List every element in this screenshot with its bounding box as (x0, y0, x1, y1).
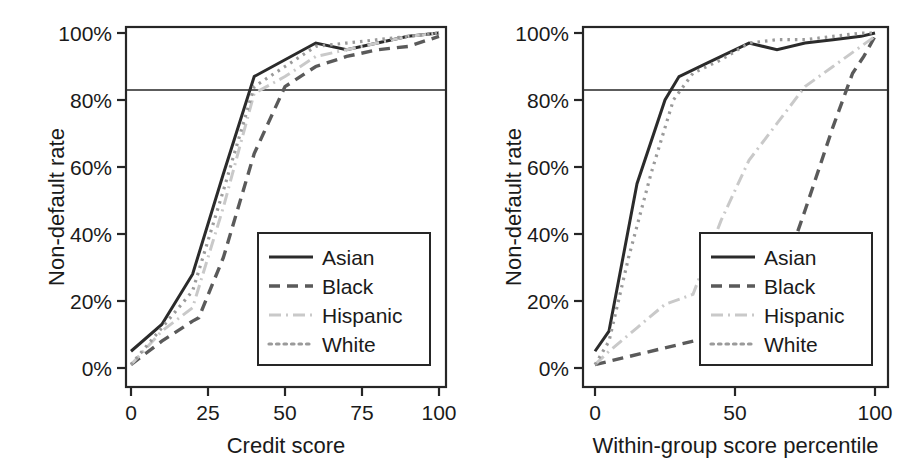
y-tick-label-20: 20% (527, 290, 569, 313)
legend-label-white: White (764, 333, 818, 356)
y-axis-title: Non-default rate (44, 128, 69, 286)
legend-label-hispanic: Hispanic (764, 304, 845, 327)
chart-panel-right: 0%20%40%60%80%100%050100Within-group sco… (461, 0, 923, 459)
legend-label-black: Black (322, 275, 374, 298)
y-tick-label-60: 60% (527, 156, 569, 179)
y-tick-label-0: 0% (82, 357, 112, 380)
x-tick-label-0: 0 (589, 401, 601, 424)
x-tick-label-50: 50 (273, 401, 296, 424)
y-tick-label-0: 0% (539, 357, 569, 380)
legend-label-asian: Asian (764, 246, 817, 269)
y-tick-label-40: 40% (70, 223, 112, 246)
y-tick-label-80: 80% (527, 89, 569, 112)
x-tick-label-0: 0 (125, 401, 137, 424)
x-tick-label-100: 100 (857, 401, 892, 424)
x-tick-label-25: 25 (196, 401, 219, 424)
y-tick-label-40: 40% (527, 223, 569, 246)
x-axis-title: Within-group score percentile (592, 433, 878, 458)
y-tick-label-100: 100% (515, 22, 569, 45)
x-tick-label-50: 50 (723, 401, 746, 424)
x-tick-label-100: 100 (421, 401, 456, 424)
y-tick-label-20: 20% (70, 290, 112, 313)
y-axis-title: Non-default rate (501, 128, 526, 286)
x-axis-title: Credit score (227, 433, 346, 458)
y-tick-label-100: 100% (58, 22, 112, 45)
x-tick-label-75: 75 (350, 401, 373, 424)
legend-label-black: Black (764, 275, 816, 298)
y-tick-label-60: 60% (70, 156, 112, 179)
chart-panel-left: 0%20%40%60%80%100%0255075100Credit score… (0, 0, 462, 459)
figure-root: 0%20%40%60%80%100%0255075100Credit score… (0, 0, 923, 459)
legend-label-hispanic: Hispanic (322, 304, 403, 327)
chart-svg-left: 0%20%40%60%80%100%0255075100Credit score… (0, 0, 462, 459)
y-tick-label-80: 80% (70, 89, 112, 112)
legend-label-asian: Asian (322, 246, 375, 269)
chart-svg-right: 0%20%40%60%80%100%050100Within-group sco… (461, 0, 923, 459)
legend-label-white: White (322, 333, 376, 356)
